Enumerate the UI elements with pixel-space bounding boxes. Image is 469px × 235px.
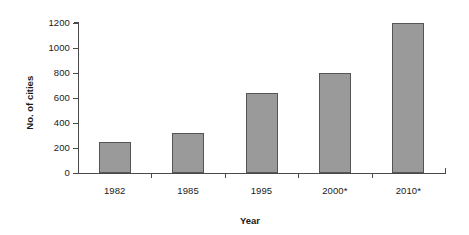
x-axis-title: Year <box>180 216 320 226</box>
x-axis-right-cap <box>445 168 446 174</box>
y-axis-tick-label: 600 <box>30 93 70 103</box>
x-axis-line <box>78 173 446 174</box>
x-axis-tick-label: 2000* <box>300 186 370 196</box>
bar <box>99 142 131 173</box>
x-axis-tick <box>151 173 152 178</box>
y-axis-title: No. of cities <box>25 43 35 163</box>
x-axis-tick <box>225 173 226 178</box>
y-axis-tick-label: 200 <box>30 143 70 153</box>
x-axis-tick <box>372 173 373 178</box>
y-axis-tick-label: 0 <box>30 168 70 178</box>
plot-area <box>78 23 445 173</box>
x-axis-tick <box>298 173 299 178</box>
y-axis-tick-label: 1000 <box>30 43 70 53</box>
y-axis-tick <box>73 173 78 174</box>
bar <box>172 133 204 173</box>
bar-chart: 020040060080010001200 1982198519952000*2… <box>0 0 469 235</box>
y-axis-tick-label: 800 <box>30 68 70 78</box>
bar <box>319 73 351 173</box>
y-axis-tick-label: 1200 <box>30 18 70 28</box>
bar <box>246 93 278 173</box>
x-axis-tick-label: 1985 <box>153 186 223 196</box>
y-axis-tick-label: 400 <box>30 118 70 128</box>
x-axis-tick-label: 1982 <box>80 186 150 196</box>
bar <box>392 23 424 173</box>
x-axis-tick-label: 2010* <box>373 186 443 196</box>
x-axis-tick-label: 1995 <box>227 186 297 196</box>
